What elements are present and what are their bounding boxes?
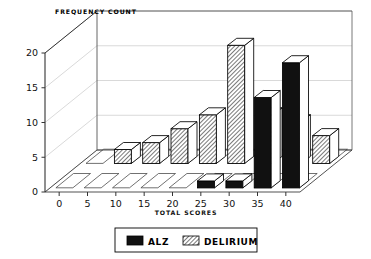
bar-chart-canvas: 20151050 0510152025303540 FREQUENCY COUN… bbox=[0, 0, 371, 259]
x-tick-0: 0 bbox=[56, 198, 62, 209]
legend-swatch-delirium bbox=[183, 236, 199, 245]
y-tick-0: 0 bbox=[32, 186, 38, 197]
x-tick-20: 20 bbox=[166, 198, 178, 209]
x-tick-5: 5 bbox=[84, 198, 90, 209]
y-tick-15: 15 bbox=[26, 82, 38, 93]
bar-delirium-20 bbox=[199, 108, 225, 164]
bar-alz-40 bbox=[283, 56, 309, 188]
bar-delirium-25 bbox=[228, 38, 254, 163]
y-tick-5: 5 bbox=[32, 152, 38, 163]
chart-figure: 20151050 0510152025303540 FREQUENCY COUN… bbox=[0, 0, 371, 259]
x-tick-10: 10 bbox=[110, 198, 122, 209]
y-tick-20: 20 bbox=[26, 47, 38, 58]
legend-item-alz: ALZ bbox=[127, 236, 169, 247]
legend-item-delirium: DELIRIUM bbox=[183, 236, 258, 247]
chart-title: FREQUENCY COUNT bbox=[55, 8, 137, 15]
x-tick-25: 25 bbox=[195, 198, 207, 209]
bar-delirium-10 bbox=[143, 136, 169, 164]
legend-swatch-alz bbox=[127, 236, 143, 245]
legend-label-delirium: DELIRIUM bbox=[204, 237, 258, 247]
x-tick-15: 15 bbox=[138, 198, 150, 209]
bar-alz-35 bbox=[254, 91, 280, 188]
x-tick-30: 30 bbox=[223, 198, 235, 209]
legend: ALZDELIRIUM bbox=[115, 228, 258, 252]
x-axis-label: TOTAL SCORES bbox=[155, 209, 218, 216]
x-tick-35: 35 bbox=[251, 198, 263, 209]
y-tick-10: 10 bbox=[26, 117, 38, 128]
legend-label-alz: ALZ bbox=[148, 237, 169, 247]
bar-delirium-40 bbox=[313, 129, 339, 164]
x-tick-40: 40 bbox=[280, 198, 292, 209]
bar-delirium-15 bbox=[171, 122, 197, 164]
